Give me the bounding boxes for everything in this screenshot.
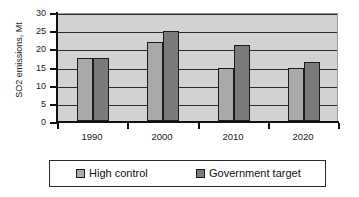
legend-label-government-target: Government target: [209, 167, 301, 180]
bar-2020-high-control: [288, 68, 304, 121]
y-axis-tick-label: 5: [6, 100, 46, 109]
x-axis-label-2000: 2000: [132, 131, 192, 142]
x-axis-label-1990: 1990: [62, 131, 122, 142]
x-axis-tick: [268, 123, 270, 129]
x-axis-label-2010: 2010: [203, 131, 263, 142]
legend-entry-high-control[interactable]: High control: [76, 166, 148, 181]
y-axis-tick-label: 15: [6, 64, 46, 73]
bar-1990-government-target: [93, 58, 109, 121]
legend-entry-government-target[interactable]: Government target: [196, 166, 301, 181]
gridline: [58, 32, 337, 33]
bar-2000-government-target: [163, 31, 179, 121]
x-axis-tick: [338, 123, 340, 129]
y-axis-tick-label: 20: [6, 45, 46, 54]
bar-2010-high-control: [218, 68, 234, 121]
y-axis-tick-label: 0: [6, 118, 46, 127]
legend-label-high-control: High control: [89, 167, 148, 180]
so2-emissions-bar-chart: SO2 emissions, Mt 302520151050 199020002…: [0, 0, 359, 197]
bar-1990-high-control: [77, 58, 93, 121]
x-axis-label-2020: 2020: [273, 131, 333, 142]
plot-area: [57, 13, 338, 122]
bar-2020-government-target: [304, 62, 320, 121]
y-axis-tick-label: 30: [6, 9, 46, 18]
y-axis-tick-label: 25: [6, 27, 46, 36]
y-axis-tick-label: 10: [6, 82, 46, 91]
chart-legend: High control Government target: [49, 160, 326, 187]
bar-2010-government-target: [234, 45, 250, 121]
bar-2000-high-control: [147, 42, 163, 121]
x-axis-tick: [198, 123, 200, 129]
legend-swatch-icon-high-control: [76, 169, 85, 178]
legend-swatch-icon-government-target: [196, 169, 205, 178]
y-axis-line: [56, 12, 58, 123]
gridline: [58, 50, 337, 51]
x-axis-tick: [127, 123, 129, 129]
x-axis-tick: [57, 123, 59, 129]
gridline: [58, 14, 337, 15]
